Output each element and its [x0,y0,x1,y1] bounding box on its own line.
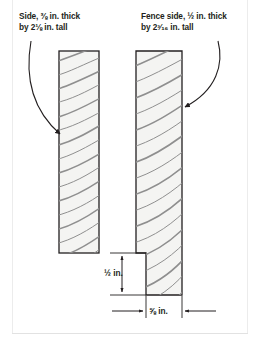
side-board [55,44,104,271]
fence-side-board [130,40,190,324]
fence-side-board-label-line1: Fence side, ½ in. thick [141,11,227,22]
horizontal-dimension-text: ⅝ in. [149,306,168,316]
drawing-canvas [0,0,260,352]
fence-side-board-label: Fence side, ½ in. thick by 2³⁄₁₆ in. tal… [141,11,227,33]
fence-side-board-label-line2: by 2³⁄₁₆ in. tall [141,22,227,33]
woodworking-detail-figure: Side, ⅜ in. thick by 2⅛ in. tall Fence s… [0,0,260,352]
side-board-label-line1: Side, ⅜ in. thick [19,11,80,22]
side-board-label: Side, ⅜ in. thick by 2⅛ in. tall [19,11,80,33]
right-callout-arrow [185,41,220,107]
side-board-label-line2: by 2⅛ in. tall [19,22,80,33]
left-callout-arrow [29,41,60,134]
vertical-dimension-text: ½ in. [104,268,123,278]
